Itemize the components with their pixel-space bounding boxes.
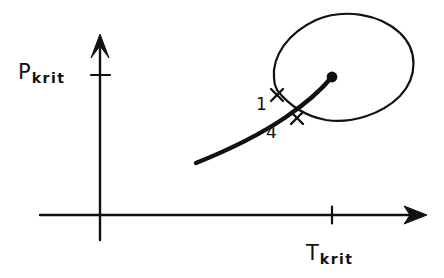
cycle-loop-curve	[274, 14, 414, 121]
pressure-axis-label-base: P	[18, 60, 32, 84]
temperature-axis-label-subscript: krit	[320, 251, 354, 267]
vapour-pressure-curve	[196, 78, 331, 163]
state-point-4-marker	[291, 112, 303, 124]
temperature-axis-label: Tkrit	[306, 243, 354, 264]
pressure-axis	[91, 34, 110, 240]
critical-point-dot	[327, 72, 338, 83]
pressure-axis-label-subscript: krit	[32, 70, 66, 86]
state-point-1-label: 1	[256, 96, 267, 113]
temperature-axis-label-base: T	[306, 241, 320, 265]
temperature-axis	[40, 206, 427, 224]
pressure-axis-label: Pkrit	[18, 62, 65, 83]
phase-diagram-figure: Pkrit Tkrit 1 4	[0, 0, 444, 278]
state-point-4-label: 4	[266, 124, 277, 141]
diagram-canvas	[0, 0, 444, 278]
